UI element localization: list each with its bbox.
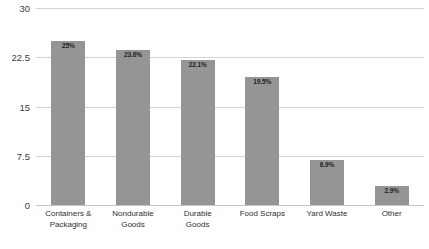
bar[interactable]: 25% — [51, 41, 85, 205]
x-axis-category-label: Food Scraps — [230, 209, 295, 220]
bar-value-label: 22.1% — [181, 62, 215, 69]
bar-value-label: 25% — [51, 43, 85, 50]
bar-slot: 2.9% — [359, 8, 424, 205]
x-axis-category-label: Nondurable Goods — [101, 209, 166, 230]
x-axis-category-label: Durable Goods — [165, 209, 230, 230]
bar-slot: 23.6% — [101, 8, 166, 205]
bar-chart: 3022.5157.50 25%23.6%22.1%19.5%6.9%2.9% … — [0, 0, 429, 249]
gridline-0 — [36, 205, 424, 206]
x-axis: Containers & PackagingNondurable GoodsDu… — [36, 209, 424, 243]
bar[interactable]: 6.9% — [310, 160, 344, 205]
y-axis-tick-label: 15 — [0, 101, 30, 112]
bars-layer: 25%23.6%22.1%19.5%6.9%2.9% — [36, 8, 424, 205]
bar-slot: 19.5% — [230, 8, 295, 205]
bar-slot: 25% — [36, 8, 101, 205]
bar[interactable]: 23.6% — [116, 50, 150, 205]
bar[interactable]: 22.1% — [181, 60, 215, 205]
bar-value-label: 2.9% — [375, 188, 409, 195]
y-axis-tick-label: 0 — [0, 200, 30, 211]
y-axis-tick-label: 30 — [0, 3, 30, 14]
bar[interactable]: 19.5% — [245, 77, 279, 205]
bar-value-label: 6.9% — [310, 162, 344, 169]
bar-value-label: 19.5% — [245, 79, 279, 86]
bar-slot: 6.9% — [295, 8, 360, 205]
x-axis-category-label: Containers & Packaging — [36, 209, 101, 230]
bar[interactable]: 2.9% — [375, 186, 409, 205]
y-axis-tick-label: 7.5 — [0, 150, 30, 161]
x-axis-category-label: Other — [359, 209, 424, 220]
y-axis-tick-label: 22.5 — [0, 52, 30, 63]
bar-slot: 22.1% — [165, 8, 230, 205]
x-axis-category-label: Yard Waste — [295, 209, 360, 220]
y-axis: 3022.5157.50 — [0, 8, 30, 205]
bar-value-label: 23.6% — [116, 52, 150, 59]
